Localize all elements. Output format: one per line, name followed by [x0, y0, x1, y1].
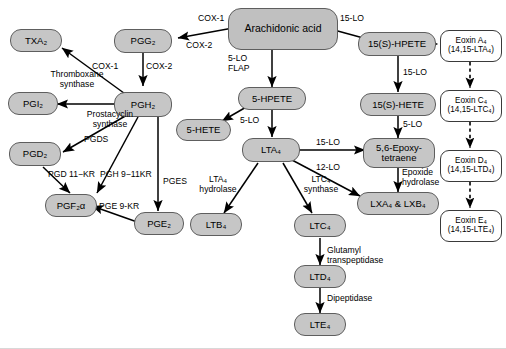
label-cox2-mid: COX-2 — [146, 62, 172, 72]
label-12lo-lta4: 12-LO — [316, 163, 340, 173]
node-eoxin-c4[interactable]: Eoxin C₄ (14,15-LTC₄) — [440, 90, 502, 122]
node-label: Arachidonic acid — [244, 23, 321, 34]
node-eoxin-a4[interactable]: Eoxin A₄ (14,15-LTA₄) — [440, 30, 502, 62]
label-ltc4-synthase: LTC₄ synthase — [294, 175, 348, 194]
node-label: Eoxin A₄ (14,15-LTA₄) — [448, 37, 494, 55]
node-ltc4[interactable]: LTC₄ — [294, 214, 346, 237]
node-label: Eoxin C₄ (14,15-LTC₄) — [448, 97, 495, 115]
node-5-hete[interactable]: 5-HETE — [176, 119, 231, 141]
label-5lo-hete15: 5-LO — [403, 120, 422, 130]
pathway-diagram: Arachidonic acid PGG₂ PGH₂ TXA₂ PGI₂ PGD… — [0, 0, 506, 349]
node-label: Eoxin E₄ (14,15-LTE₄) — [448, 217, 494, 235]
node-label: 15(S)-HETE — [372, 100, 424, 110]
node-lipoxins[interactable]: LXA₄ & LXB₄ — [357, 192, 439, 215]
label-pgds: PGDS — [84, 135, 108, 145]
label-pges: PGES — [163, 177, 187, 187]
label-thromboxane-synthase: Thromboxane synthase — [31, 70, 123, 89]
label-pge-9kr: PGE 9-KR — [99, 202, 139, 212]
label-lta4-hydrolase: LTA₄ hydrolase — [190, 175, 246, 194]
label-15lo-top: 15-LO — [340, 14, 364, 24]
node-label: PGE₂ — [147, 219, 171, 229]
node-lte4[interactable]: LTE₄ — [294, 313, 346, 336]
node-pgf2alpha[interactable]: PGF₂α — [45, 194, 97, 217]
node-label: PGD₂ — [23, 149, 47, 159]
node-label: LTA₄ — [261, 145, 281, 155]
label-pgh-9-11kr: PGH 9−11KR — [100, 170, 152, 180]
label-prostacyclin-synthase: Prostacyclin synthase — [64, 110, 156, 129]
node-eoxin-e4[interactable]: Eoxin E₄ (14,15-LTE₄) — [440, 210, 502, 242]
node-label: 5-HPETE — [252, 94, 292, 104]
node-pgi2[interactable]: PGI₂ — [8, 92, 58, 115]
node-5-hpete[interactable]: 5-HPETE — [238, 87, 306, 110]
label-cox1-top: COX-1 — [198, 14, 224, 24]
node-label: 5,6-Epoxy- tetraene — [376, 143, 422, 164]
node-pgg2[interactable]: PGG₂ — [114, 29, 172, 53]
label-5lo-hpete: 5-LO — [240, 116, 259, 126]
label-glutamyl-transpeptidase: Glutamyl transpeptidase — [327, 246, 411, 265]
node-ltd4[interactable]: LTD₄ — [294, 265, 346, 288]
node-pge2[interactable]: PGE₂ — [134, 212, 184, 235]
node-5-6-epoxytetraene[interactable]: 5,6-Epoxy- tetraene — [363, 138, 435, 168]
node-label: PGH₂ — [131, 100, 155, 110]
label-5lo-flap: 5-LO FLAP — [228, 54, 268, 73]
node-label: PGI₂ — [23, 99, 43, 109]
label-15lo-lta4: 15-LO — [316, 138, 340, 148]
node-txa2[interactable]: TXA₂ — [10, 29, 62, 52]
node-15s-hete[interactable]: 15(S)-HETE — [360, 93, 436, 116]
node-label: 5-HETE — [187, 125, 221, 135]
node-15s-hpete[interactable]: 15(S)-HPETE — [358, 32, 436, 56]
label-epoxide-hydrolase: Epoxide hydrolase — [402, 168, 458, 187]
node-ltb4[interactable]: LTB₄ — [190, 213, 242, 236]
label-pgd-11kr: PGD 11−KR — [48, 170, 95, 180]
node-label: LTE₄ — [310, 320, 331, 330]
label-dipeptidase: Dipeptidase — [327, 294, 372, 304]
node-label: TXA₂ — [25, 36, 47, 46]
node-lta4[interactable]: LTA₄ — [242, 138, 300, 162]
node-label: PGF₂α — [57, 201, 86, 211]
node-arachidonic-acid[interactable]: Arachidonic acid — [228, 8, 338, 50]
node-label: LTD₄ — [309, 272, 330, 282]
node-label: PGG₂ — [131, 36, 156, 46]
label-cox2-top: COX-2 — [186, 41, 212, 51]
node-label: LXA₄ & LXB₄ — [370, 199, 425, 209]
label-15lo-right: 15-LO — [403, 68, 427, 78]
node-pgd2[interactable]: PGD₂ — [9, 142, 61, 166]
node-label: LTC₄ — [309, 221, 330, 231]
node-label: 15(S)-HPETE — [368, 39, 426, 49]
node-label: LTB₄ — [206, 220, 227, 230]
